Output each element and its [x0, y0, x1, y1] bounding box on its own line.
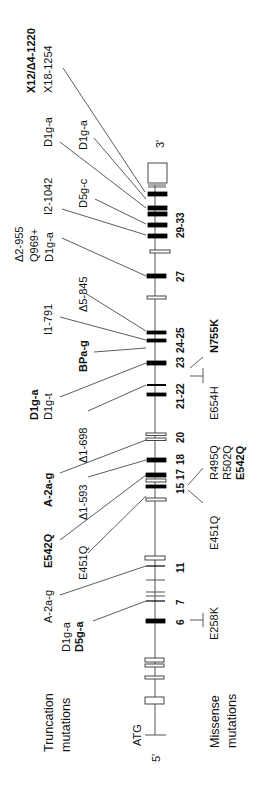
- exon-18: [147, 458, 166, 462]
- exon-label-29-33: 29-33: [175, 212, 186, 238]
- mutation-label: E542Q: [42, 533, 54, 568]
- mutation-label: BPa-g: [77, 340, 89, 372]
- exon-12: [145, 556, 165, 560]
- mutation-label: A-2a-g: [42, 473, 54, 507]
- exon-29: [148, 234, 167, 238]
- exon-label-17: 17: [175, 468, 186, 480]
- exon-26: [147, 296, 166, 299]
- svg-text:mutations: mutations: [225, 694, 239, 748]
- mutation-label: D5g-c: [77, 178, 89, 208]
- exon-4: [145, 664, 164, 667]
- mutation-label: D1g-a: [60, 621, 72, 652]
- mutation-label: Δ1-593: [77, 485, 89, 520]
- exon-16: [146, 479, 166, 482]
- truncation-mutations-heading: Truncation mutations: [42, 693, 73, 752]
- exon-20: [146, 433, 166, 436]
- missense-mutations-heading: Missense mutations: [208, 694, 239, 748]
- mutation-label: Δ2-955: [13, 227, 25, 262]
- exon-3: [145, 676, 164, 679]
- mutation-label: D1g-a: [77, 119, 89, 150]
- exon-23: [147, 361, 166, 365]
- mutation-label: D5g-a: [73, 621, 85, 652]
- atg-label: ATG: [131, 724, 143, 746]
- mutation-label: E451Q: [77, 545, 89, 580]
- truncation-mutation-labels: X12/Δ4-1220 X18-1254 D1g-a D1g-a I2-1042…: [13, 28, 89, 652]
- svg-text:mutations: mutations: [59, 698, 73, 752]
- mutation-label: E542Q: [234, 445, 246, 480]
- five-prime-label: 5': [150, 754, 162, 762]
- missense-leader-lines: [188, 357, 203, 627]
- exon-14: [146, 498, 166, 501]
- mutation-label: E451Q: [208, 515, 220, 550]
- exon-3utr-box: [148, 163, 167, 183]
- mutation-label: I2-1042: [42, 178, 54, 215]
- svg-text:Missense: Missense: [208, 695, 222, 748]
- exon-label-24-25: 24-25: [175, 327, 186, 353]
- exon-32: [148, 206, 167, 210]
- mutation-label: X12/Δ4-1220: [25, 28, 37, 93]
- exon-label-7: 7: [175, 599, 186, 605]
- exon-2: [145, 697, 164, 704]
- mutation-label: N755K: [208, 319, 220, 353]
- svg-text:Truncation: Truncation: [42, 693, 56, 752]
- mutation-label: E654H: [208, 386, 220, 420]
- exon-25: [147, 331, 166, 334]
- exon-27: [147, 274, 166, 278]
- exon-6: [146, 619, 165, 623]
- exon-label-23: 23: [175, 356, 186, 368]
- exon-21: [147, 393, 166, 396]
- mutation-label: A-2a-g: [42, 590, 54, 623]
- missense-mutation-labels: N755K E654H R495Q R502Q E542Q E451Q E258…: [208, 319, 246, 640]
- mutation-label: D1g-a: [43, 231, 55, 262]
- exon-label-6: 6: [175, 619, 186, 625]
- mutation-label: X18-1254: [42, 45, 54, 93]
- exon-label-27: 27: [175, 270, 186, 282]
- exon-17: [146, 473, 166, 477]
- exon-label-20: 20: [175, 431, 186, 443]
- exon-33: [148, 192, 167, 196]
- mutation-label: Δ1-698: [77, 428, 89, 463]
- mutation-label: I1-791: [42, 304, 54, 335]
- mutation-label: R495Q: [208, 445, 220, 480]
- exon-label-11: 11: [175, 562, 186, 573]
- mutation-label: D1g-t: [42, 393, 54, 420]
- three-prime-label: 3': [154, 140, 166, 148]
- gene-mutation-diagram: 29-33 27 24-25 23 21-22 20 18 17 15 11 7…: [0, 0, 256, 791]
- mutation-label: E258K: [208, 606, 220, 640]
- exon-28: [150, 250, 170, 253]
- truncation-leader-lines: [60, 68, 146, 621]
- exon-31: [148, 212, 167, 216]
- exon-19: [146, 438, 166, 441]
- mutation-label: Δ5-845: [77, 277, 89, 312]
- mutation-label: R502Q: [221, 445, 233, 480]
- exon-label-15: 15: [175, 482, 186, 494]
- exon-15: [146, 485, 166, 488]
- exon-5: [145, 658, 164, 662]
- exon-30: [148, 223, 167, 227]
- exon-label-21-22: 21-22: [175, 383, 186, 409]
- mutation-label: D1g-a: [42, 116, 54, 147]
- exon-24: [147, 339, 166, 342]
- exon-number-labels: 29-33 27 24-25 23 21-22 20 18 17 15 11 7…: [175, 212, 186, 625]
- mutation-label: Q969+: [28, 229, 40, 262]
- exon-label-18: 18: [175, 453, 186, 465]
- mutation-label: D1g-a: [28, 389, 40, 420]
